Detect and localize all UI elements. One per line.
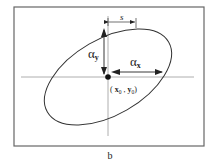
alpha-y-arrowhead-up	[101, 28, 107, 37]
center-label: ( x0 , y0)	[110, 85, 137, 95]
alpha-y-subscript: y	[95, 53, 99, 62]
s-label: s	[120, 12, 124, 22]
ellipse-diagram: s αy αx ( x0 , y0) b	[0, 0, 215, 166]
figure-caption: b	[108, 150, 113, 161]
alpha-x-arrowhead-left	[111, 69, 120, 75]
alpha-y-label: αy	[88, 46, 99, 62]
alpha-x-label: αx	[130, 54, 141, 70]
center-point	[105, 74, 111, 80]
alpha-x-subscript: x	[137, 61, 141, 70]
